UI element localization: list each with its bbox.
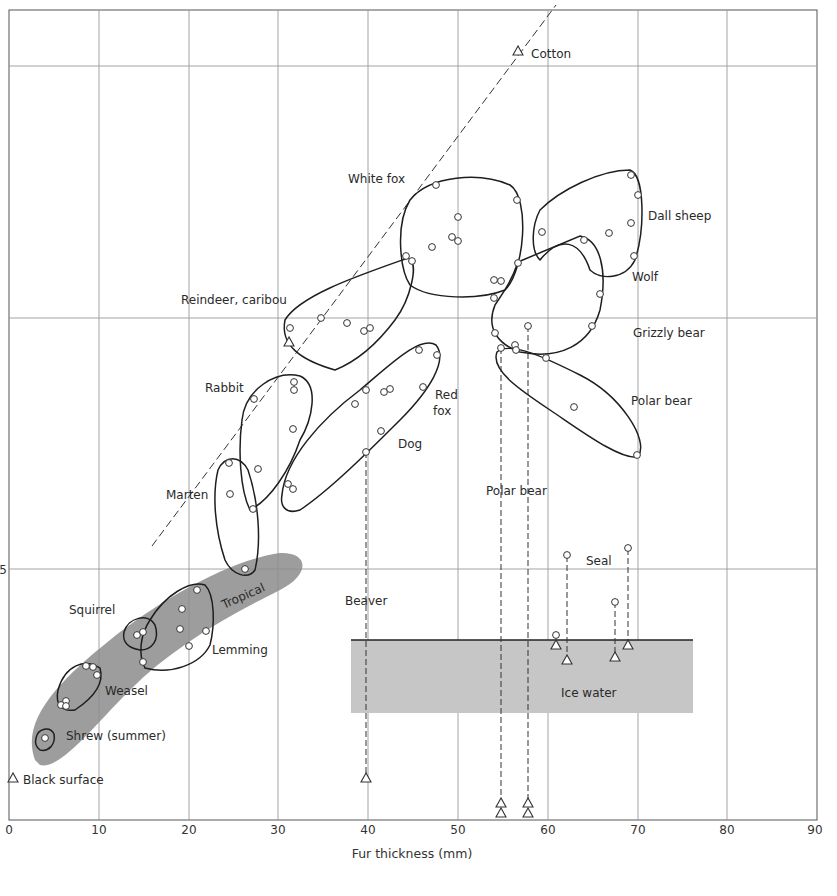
- label-reindeer: Reindeer, caribou: [181, 293, 287, 307]
- label-ice-water: Ice water: [561, 686, 617, 700]
- label-white-fox: White fox: [348, 172, 405, 186]
- x-axis: 0 10 20 30 40 50 60 70 80 90 Fur thickne…: [5, 823, 822, 861]
- marten-outline: [215, 459, 259, 575]
- wolf-outline: [492, 236, 603, 354]
- ice-water-region: [351, 640, 693, 713]
- x-tick: 30: [270, 823, 285, 837]
- y-tick-5: 5: [0, 563, 7, 577]
- label-lemming: Lemming: [212, 643, 268, 657]
- rabbit-outline: [240, 375, 312, 510]
- x-tick: 50: [450, 823, 465, 837]
- white-fox-outline: [401, 177, 523, 297]
- dog-outline: [282, 343, 440, 511]
- x-tick: 90: [807, 823, 822, 837]
- label-red-fox-line1: Red: [435, 388, 458, 402]
- label-squirrel: Squirrel: [69, 603, 115, 617]
- x-tick: 80: [719, 823, 734, 837]
- fur-thickness-chart: Cotton White fox Dall sheep Wolf Reindee…: [0, 0, 837, 896]
- label-beaver: Beaver: [345, 594, 387, 608]
- polar-bear-outline: [496, 348, 641, 457]
- label-marten: Marten: [166, 488, 208, 502]
- x-tick: 0: [5, 823, 13, 837]
- reindeer-outline: [284, 258, 413, 370]
- label-dall-sheep: Dall sheep: [648, 209, 711, 223]
- dall-sheep-outline: [533, 170, 642, 277]
- label-rabbit: Rabbit: [205, 381, 244, 395]
- label-polar-bear-fur: Polar bear: [486, 484, 547, 498]
- label-polar-bear: Polar bear: [631, 394, 692, 408]
- x-tick: 10: [91, 823, 106, 837]
- x-tick: 40: [360, 823, 375, 837]
- label-black-surface: Black surface: [23, 773, 104, 787]
- x-tick: 20: [181, 823, 196, 837]
- label-dog: Dog: [398, 437, 422, 451]
- label-seal: Seal: [586, 554, 612, 568]
- label-wolf: Wolf: [632, 270, 659, 284]
- label-shrew: Shrew (summer): [66, 729, 166, 743]
- label-red-fox-line2: fox: [433, 404, 451, 418]
- label-weasel: Weasel: [105, 684, 148, 698]
- x-tick: 60: [540, 823, 555, 837]
- x-axis-title: Fur thickness (mm): [352, 846, 473, 861]
- x-tick: 70: [630, 823, 645, 837]
- label-cotton: Cotton: [531, 47, 571, 61]
- label-grizzly-bear: Grizzly bear: [633, 326, 705, 340]
